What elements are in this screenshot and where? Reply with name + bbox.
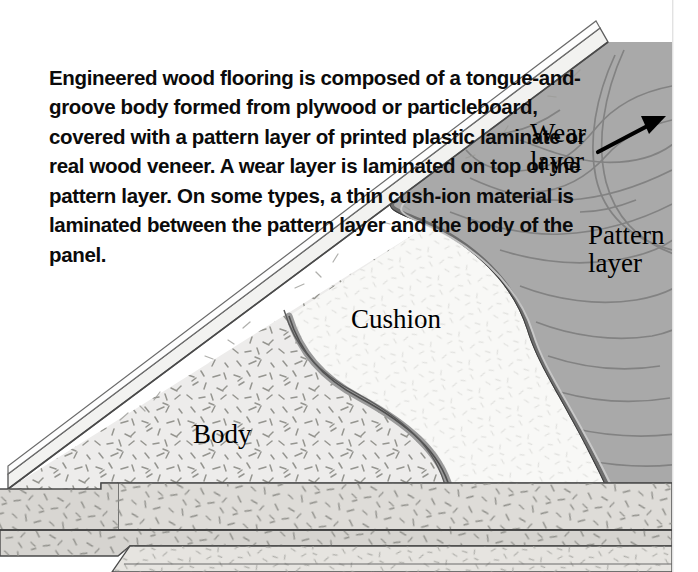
label-wear-layer: Wear layer	[530, 120, 586, 175]
caption-body: is composed of a tongue-and-groove body …	[49, 66, 585, 266]
right-margin	[672, 0, 698, 572]
right-margin-rule	[672, 0, 673, 572]
plank-front-edge-profile	[0, 483, 672, 572]
label-pattern-line2: layer	[588, 250, 664, 278]
caption-lead: Engineered wood flooring	[49, 66, 293, 89]
figure-caption: Engineered wood flooring is composed of …	[49, 33, 609, 269]
label-wear-line1: Wear	[530, 120, 586, 148]
figure-canvas: Engineered wood flooring is composed of …	[0, 0, 698, 572]
label-pattern-layer: Pattern layer	[588, 222, 664, 277]
label-pattern-line1: Pattern	[588, 222, 664, 250]
label-cushion: Cushion	[351, 306, 441, 334]
label-wear-line2: layer	[530, 148, 586, 176]
label-body: Body	[193, 421, 252, 449]
